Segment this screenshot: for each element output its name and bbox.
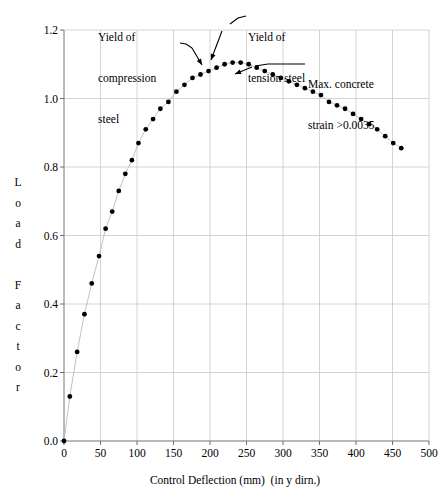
annotation-line: Max. concrete [308,78,375,92]
y-axis-title-letter: L [14,176,21,188]
x-tick-label: 400 [347,447,364,459]
annotation-max-concrete-strain: Max. concrete strain >0.0035 [308,50,375,160]
x-tick-label: 450 [384,447,401,459]
annotation-line: tension steel [248,72,305,86]
x-tick-label: 200 [201,447,218,459]
annotation-yield-tension-steel: Yield of tension steel [248,3,305,113]
annotation-line: steel [98,113,156,127]
x-tick-label: 300 [274,447,291,459]
y-axis-title-letter: d [15,238,21,250]
load-deflection-plot [0,0,446,499]
x-tick-label: 100 [128,447,145,459]
y-axis-title-letter: o [15,197,21,209]
x-tick-label: 0 [61,447,67,459]
x-axis-title: Control Deflection (mm) (in y dirn.) [150,474,320,486]
y-tick-label: 0.4 [32,298,58,310]
annotation-line: Yield of [248,31,305,45]
y-axis-title-letter: c [15,320,20,332]
annotation-line: Yield of [98,31,156,45]
chart-container: 050100150200250300350400450500 0.00.20.4… [0,0,446,499]
x-tick-label: 250 [238,447,255,459]
x-tick-label: 500 [420,447,437,459]
x-tick-label: 350 [311,447,328,459]
y-tick-label: 0.2 [32,366,58,378]
y-tick-label: 1.2 [32,24,58,36]
annotation-yield-compression-steel: Yield of compression steel [98,3,156,155]
y-axis-title-letter: a [15,217,20,229]
y-tick-label: 1.0 [32,92,58,104]
y-axis-title-letter: r [16,381,20,393]
y-axis-title-letter: a [15,299,20,311]
annotation-line: strain >0.0035 [308,119,375,133]
y-axis-title-letter: t [16,340,19,352]
y-axis-title-letter: F [15,279,21,291]
y-tick-label: 0.0 [32,435,58,447]
x-tick-label: 150 [165,447,182,459]
y-tick-label: 0.6 [32,229,58,241]
x-tick-label: 50 [95,447,107,459]
annotation-line: compression [98,72,156,86]
y-axis-title-letter: o [15,361,21,373]
y-tick-label: 0.8 [32,161,58,173]
